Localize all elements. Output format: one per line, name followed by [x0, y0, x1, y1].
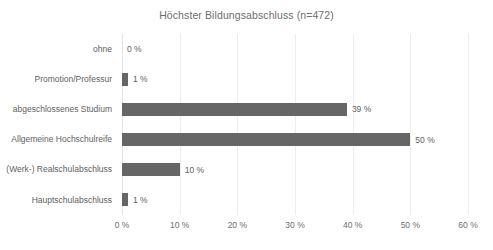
bar-track: 1 %	[122, 193, 468, 206]
bar-value-label: 0 %	[127, 44, 142, 54]
bar-track: 10 %	[122, 163, 468, 176]
category-label: (Werk-) Realschulabschluss	[0, 165, 112, 174]
category-label: ohne	[0, 45, 112, 54]
bar[interactable]	[122, 73, 128, 86]
bar[interactable]	[122, 103, 347, 116]
bar-value-label: 1 %	[133, 74, 148, 84]
bar-track: 50 %	[122, 133, 468, 146]
x-tick-label: 10 %	[170, 219, 189, 231]
bar[interactable]	[122, 193, 128, 206]
bar-track: 0 %	[122, 43, 468, 56]
x-tick-label: 60 %	[458, 219, 477, 231]
bar-row: Promotion/Professur1 %	[0, 64, 493, 94]
x-tick-label: 50 %	[401, 219, 420, 231]
chart-title: Höchster Bildungsabschluss (n=472)	[0, 9, 493, 21]
bar-row: Hauptschulabschluss1 %	[0, 185, 493, 215]
bar-value-label: 50 %	[415, 135, 434, 145]
category-label: Promotion/Professur	[0, 75, 112, 84]
bar-row: (Werk-) Realschulabschluss10 %	[0, 155, 493, 185]
bar-chart: Höchster Bildungsabschluss (n=472) ohne0…	[0, 0, 493, 250]
x-tick-label: 20 %	[228, 219, 247, 231]
bar-value-label: 10 %	[185, 165, 204, 175]
bar-row: Allgemeine Hochschulreife50 %	[0, 125, 493, 155]
x-tick-label: 30 %	[285, 219, 304, 231]
bar-value-label: 1 %	[133, 195, 148, 205]
category-label: Allgemeine Hochschulreife	[0, 135, 112, 144]
bar-row: abgeschlossenes Studium39 %	[0, 94, 493, 124]
category-label: Hauptschulabschluss	[0, 196, 112, 205]
bar[interactable]	[122, 163, 180, 176]
bar-track: 39 %	[122, 103, 468, 116]
x-tick-label: 0 %	[115, 219, 130, 231]
category-label: abgeschlossenes Studium	[0, 105, 112, 114]
bar-rows: ohne0 %Promotion/Professur1 %abgeschloss…	[0, 34, 493, 215]
bar-track: 1 %	[122, 73, 468, 86]
x-axis-tick-labels: 0 %10 %20 %30 %40 %50 %60 %	[122, 219, 468, 235]
bar-row: ohne0 %	[0, 34, 493, 64]
x-tick-label: 40 %	[343, 219, 362, 231]
bar-value-label: 39 %	[352, 104, 371, 114]
bar[interactable]	[122, 133, 410, 146]
